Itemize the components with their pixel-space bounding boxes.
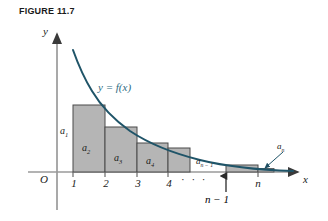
bar-label-a1: a1 (60, 126, 68, 136)
bar-label-a4-sub: 4 (151, 161, 154, 168)
bar-label-anm1-sub: n − 1 (201, 162, 214, 168)
x-tick-label-3: 3 (132, 178, 144, 189)
x-axis-label: x (303, 174, 308, 185)
bar-label-an-sub: n (282, 147, 285, 153)
y-axis-label: y (43, 26, 48, 37)
rectangle-group (73, 105, 274, 172)
bar-label-a2: a2 (82, 143, 90, 153)
bar-label-a3-sub: 3 (119, 158, 122, 165)
x-tick-label-1: 1 (68, 178, 80, 189)
origin-label: O (40, 174, 48, 185)
bar-label-a-n-minus-1: an − 1 (196, 157, 213, 166)
x-axis-ellipsis: · · · (181, 173, 208, 185)
bar-a2 (105, 127, 137, 172)
bar-label-a-n: an (277, 142, 284, 151)
bar-label-a4: a4 (146, 156, 154, 166)
figure-container: FIGURE 11.7 (0, 0, 328, 221)
x-tick-label-n: n (252, 178, 264, 189)
x-tick-label-2: 2 (100, 178, 112, 189)
bar-a1 (73, 105, 105, 172)
bar-label-a3: a3 (114, 153, 122, 163)
an-leader-line (265, 152, 283, 168)
bar-label-a2-sub: 2 (87, 148, 90, 155)
x-tick-label-n-minus-1: n − 1 (205, 193, 229, 205)
x-tick-label-4: 4 (163, 178, 175, 189)
bar-label-a1-sub: 1 (65, 131, 68, 138)
curve-equation-label: y = f(x) (98, 81, 131, 93)
